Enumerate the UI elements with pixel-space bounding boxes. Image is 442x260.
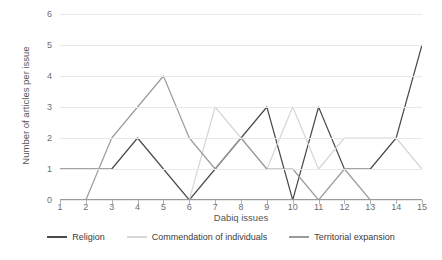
y-axis-tick-label: 2 (47, 133, 52, 143)
x-axis-tick-label: 8 (238, 202, 243, 212)
x-axis-tick-label: 7 (213, 202, 218, 212)
y-axis-tick-label: 4 (47, 71, 52, 81)
y-axis-tick-label: 1 (47, 164, 52, 174)
x-axis-tick-label: 3 (109, 202, 114, 212)
x-axis-tick-label: 11 (314, 202, 323, 212)
series-line-commendation-of-individuals (60, 107, 422, 200)
line-chart: 0123456 Number of articles per issue 123… (0, 0, 442, 260)
x-axis-tick-label: 13 (365, 202, 375, 212)
gridline (60, 14, 422, 15)
y-axis-tick-label: 6 (47, 9, 52, 19)
legend-item[interactable]: Commendation of individuals (127, 232, 268, 242)
legend-swatch-icon (127, 236, 147, 238)
gridline (60, 138, 422, 139)
chart-legend: ReligionCommendation of individualsTerri… (0, 232, 442, 242)
legend-label: Territorial expansion (314, 232, 395, 242)
x-axis-tick-label: 1 (57, 202, 62, 212)
x-axis-tick-label: 12 (339, 202, 349, 212)
x-axis-tick-label: 2 (83, 202, 88, 212)
gridline (60, 107, 422, 108)
x-axis-title: Dabiq issues (60, 212, 422, 223)
y-axis-title: Number of articles per issue (20, 21, 31, 191)
x-axis-tick-label: 6 (187, 202, 192, 212)
x-axis-tick-label: 5 (161, 202, 166, 212)
legend-item[interactable]: Religion (47, 232, 105, 242)
legend-swatch-icon (289, 236, 309, 238)
x-axis-tick-label: 14 (391, 202, 401, 212)
x-axis-tick-label: 9 (264, 202, 269, 212)
gridline (60, 169, 422, 170)
legend-item[interactable]: Territorial expansion (289, 232, 395, 242)
legend-label: Religion (72, 232, 105, 242)
y-axis-tick-label: 5 (47, 40, 52, 50)
y-axis-tick-label: 3 (47, 102, 52, 112)
y-axis-tick-label: 0 (47, 195, 52, 205)
gridline (60, 76, 422, 77)
x-axis-tick-label: 10 (288, 202, 298, 212)
gridline (60, 45, 422, 46)
legend-swatch-icon (47, 236, 67, 238)
legend-label: Commendation of individuals (152, 232, 268, 242)
plot-area (60, 14, 422, 200)
series-line-religion (60, 45, 422, 200)
x-axis-tick-label: 4 (135, 202, 140, 212)
x-axis-tick-label: 15 (417, 202, 427, 212)
